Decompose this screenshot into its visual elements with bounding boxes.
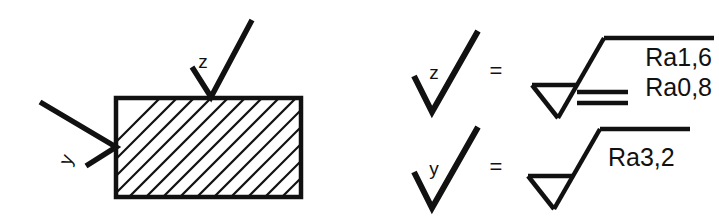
- z-leader-label: z: [198, 51, 208, 72]
- y-symbol-label: y: [429, 158, 439, 179]
- legend-row-y: y = Ra3,2: [414, 127, 690, 209]
- technical-drawing-svg: z y z =: [0, 0, 719, 224]
- roughness-value-tertiary: Ra3,2: [608, 143, 675, 171]
- roughness-value-secondary: Ra0,8: [645, 73, 712, 101]
- legend-group: z = Ra1,6: [414, 31, 714, 209]
- y-equals-sign: =: [490, 154, 503, 179]
- z-check-symbol: [414, 31, 478, 112]
- drawing-canvas: z y z =: [0, 0, 719, 224]
- roughness-value-primary: Ra1,6: [645, 43, 712, 71]
- z-equals-sign: =: [490, 58, 503, 83]
- y-leader-label: y: [54, 151, 77, 168]
- y-leader-symbol: [40, 102, 116, 166]
- y-check-symbol: [414, 127, 478, 208]
- part-view-group: z y: [40, 20, 401, 198]
- z-symbol-label: z: [429, 62, 439, 83]
- legend-row-z: z = Ra1,6: [414, 31, 714, 118]
